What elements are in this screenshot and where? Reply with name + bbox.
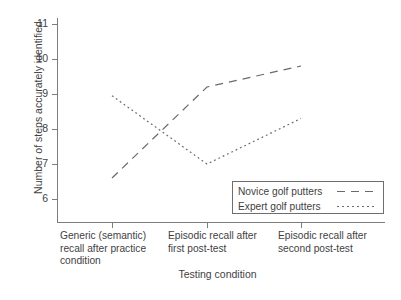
y-tick-label-11: 11 (28, 17, 48, 29)
x-tick-mark-2 (207, 223, 208, 228)
x-axis-line (57, 222, 385, 223)
x-tick-mark-1 (112, 223, 113, 228)
legend-item-expert: Expert golf putters (238, 198, 380, 214)
legend-label-novice: Novice golf putters (238, 186, 337, 197)
legend: Novice golf putters Expert golf putters (232, 181, 384, 214)
series-line-novice (112, 66, 301, 178)
x-tick-mark-3 (301, 223, 302, 228)
y-tick-label-6: 6 (28, 192, 48, 204)
legend-item-novice: Novice golf putters (238, 183, 380, 199)
series-line-expert (112, 96, 301, 164)
line-chart: Number of steps accurately identified 11… (0, 0, 401, 300)
legend-label-expert: Expert golf putters (238, 201, 337, 212)
x-tick-label-1: Generic (semantic) recall after practice… (60, 230, 165, 268)
y-tick-label-8: 8 (28, 122, 48, 134)
legend-swatch-dashed-icon (337, 191, 377, 192)
x-axis-title: Testing condition (155, 268, 280, 280)
y-tick-label-7: 7 (28, 157, 48, 169)
y-axis-title: Number of steps accurately identified (30, 0, 46, 215)
legend-swatch-dotted-icon (337, 206, 377, 207)
y-tick-label-9: 9 (28, 87, 48, 99)
x-tick-label-2: Episodic recall after first post-test (168, 230, 273, 255)
x-tick-label-3: Episodic recall after second post-test (278, 230, 388, 255)
y-tick-label-10: 10 (28, 52, 48, 64)
